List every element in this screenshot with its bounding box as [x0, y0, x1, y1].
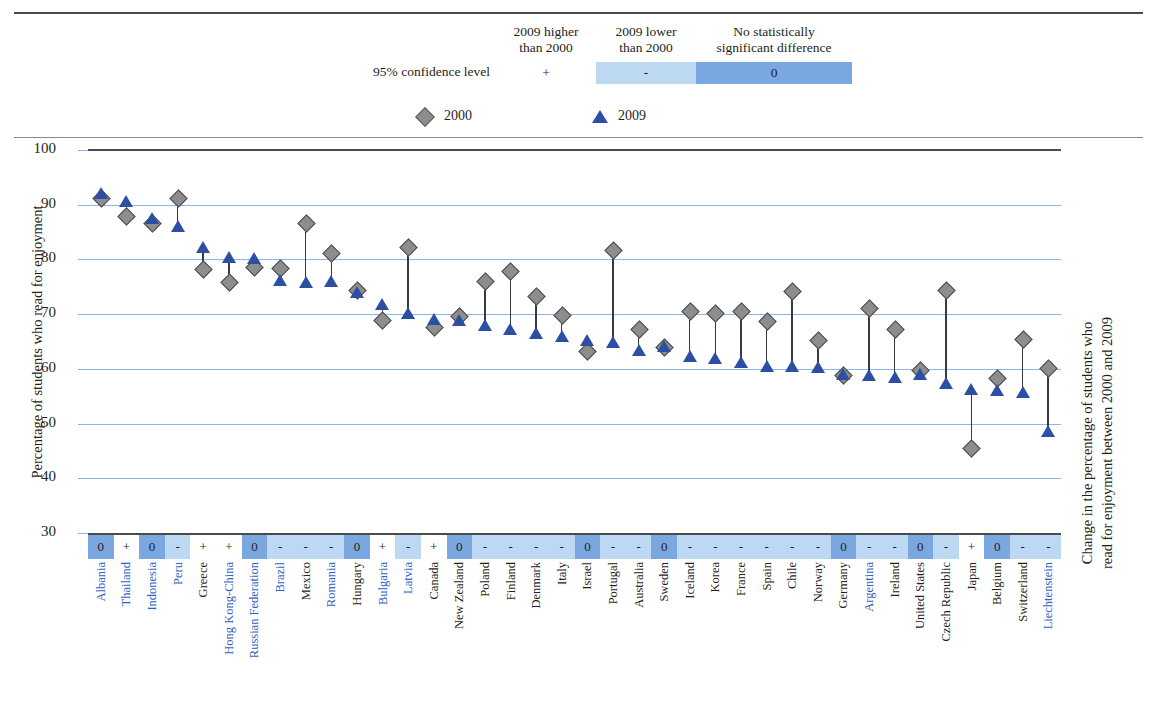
country-label-text: Liechtenstein [1042, 562, 1054, 629]
significance-cell: - [703, 535, 729, 559]
significance-cell: - [293, 535, 319, 559]
country-label: Finland [498, 562, 524, 712]
country-label: Denmark [523, 562, 549, 712]
country-label: Indonesia [139, 562, 165, 712]
legend-item-2000: 2000 [418, 104, 472, 128]
data-point-2009 [888, 371, 902, 383]
data-point-2009 [273, 274, 287, 286]
significance-cell: - [805, 535, 831, 559]
significance-key-zero: 0 [696, 62, 852, 84]
data-point-2000 [886, 321, 904, 339]
connector-line [791, 291, 793, 365]
data-point-2009 [350, 286, 364, 298]
data-point-2009 [657, 340, 671, 352]
series-legend: 2000 2009 [400, 104, 740, 130]
data-point-2000 [1039, 359, 1057, 377]
country-label-text: Portugal [607, 562, 619, 604]
gridline-50 [88, 424, 1061, 425]
data-point-2000 [118, 207, 136, 225]
data-point-2009 [145, 212, 159, 224]
data-point-2009 [760, 360, 774, 372]
connector-line [612, 250, 614, 342]
significance-header-nodiff: No statistically significant difference [696, 24, 852, 56]
right-axis-title-text: Change in the percentage of students who… [1077, 317, 1117, 569]
country-label-text: Czech Republic [940, 562, 952, 642]
country-label-text: Israel [581, 562, 593, 590]
significance-key-plus: + [496, 62, 596, 84]
country-axis-labels: AlbaniaThailandIndonesiaPeruGreeceHong K… [88, 562, 1061, 712]
country-label: Bulgaria [370, 562, 396, 712]
significance-cell: - [318, 535, 344, 559]
data-point-2000 [963, 439, 981, 457]
y-tick-mark-90 [78, 205, 88, 206]
country-label-text: Bulgaria [377, 562, 389, 605]
country-label: Mexico [293, 562, 319, 712]
significance-cell: + [370, 535, 396, 559]
y-tick-mark-70 [78, 314, 88, 315]
country-label-text: Japan [966, 562, 978, 590]
country-label-text: Sweden [658, 562, 670, 602]
country-label-text: Albania [95, 562, 107, 602]
y-tick-label-50: 50 [0, 415, 56, 430]
country-label-text: Brazil [274, 562, 286, 593]
data-point-2000 [1014, 330, 1032, 348]
country-label-text: Romania [325, 562, 337, 607]
significance-key-minus: - [596, 62, 696, 84]
significance-cell: 0 [908, 535, 934, 559]
significance-cell: - [856, 535, 882, 559]
significance-cell: + [114, 535, 140, 559]
significance-cell: - [882, 535, 908, 559]
y-tick-label-100: 100 [0, 141, 56, 156]
country-label-text: Indonesia [146, 562, 158, 611]
significance-cell: + [421, 535, 447, 559]
country-label: Germany [831, 562, 857, 712]
significance-cell: - [549, 535, 575, 559]
country-label-text: Greece [197, 562, 209, 597]
y-axis-tick-labels: 10090807060504030 [0, 0, 88, 720]
data-point-2009 [119, 195, 133, 207]
country-label-text: Ireland [889, 562, 901, 597]
data-point-2009 [1041, 425, 1055, 437]
significance-cell: - [165, 535, 191, 559]
y-tick-label-40: 40 [0, 469, 56, 484]
data-point-2009 [964, 383, 978, 395]
connector-line [407, 247, 409, 312]
country-label: Poland [472, 562, 498, 712]
country-label-text: Russian Federation [248, 562, 260, 658]
data-point-2009 [503, 323, 517, 335]
country-label: Switzerland [1010, 562, 1036, 712]
significance-header-higher-line2: than 2000 [496, 40, 596, 56]
country-label: Latvia [395, 562, 421, 712]
data-point-2009 [836, 368, 850, 380]
gridline-90 [88, 205, 1061, 206]
data-point-2000 [732, 303, 750, 321]
significance-cell: - [933, 535, 959, 559]
country-label-text: Germany [837, 562, 849, 609]
significance-cell: 0 [831, 535, 857, 559]
significance-cell: - [600, 535, 626, 559]
significance-cell: 0 [575, 535, 601, 559]
country-label: Norway [805, 562, 831, 712]
legend-label-2000: 2000 [444, 108, 472, 123]
significance-cell: - [523, 535, 549, 559]
significance-cell: 0 [651, 535, 677, 559]
data-point-2009 [478, 319, 492, 331]
country-label-text: New Zealand [453, 562, 465, 629]
data-point-2009 [196, 241, 210, 253]
significance-cell: + [216, 535, 242, 559]
data-point-2009 [222, 251, 236, 263]
significance-cell: 0 [139, 535, 165, 559]
data-point-2000 [604, 241, 622, 259]
data-point-2009 [375, 298, 389, 310]
data-point-2009 [247, 252, 261, 264]
significance-cell: + [959, 535, 985, 559]
diamond-marker-icon [415, 107, 435, 127]
data-point-2009 [606, 336, 620, 348]
data-point-2009 [708, 352, 722, 364]
country-label: Liechtenstein [1036, 562, 1062, 712]
country-label-text: Norway [812, 562, 824, 602]
significance-cell: 0 [88, 535, 114, 559]
data-point-2000 [220, 274, 238, 292]
significance-cell: - [677, 535, 703, 559]
significance-cell: - [626, 535, 652, 559]
